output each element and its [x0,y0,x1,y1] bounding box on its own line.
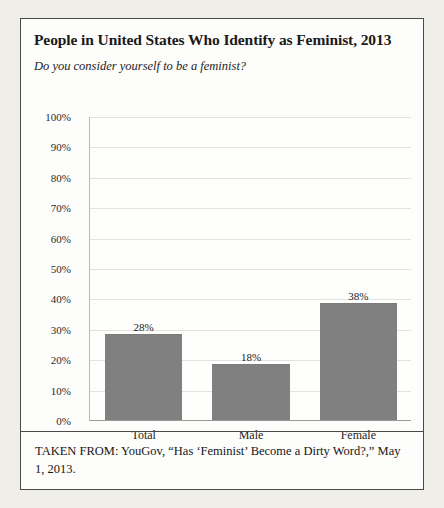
source-divider [21,431,423,432]
figure-frame: People in United States Who Identify as … [20,18,424,490]
y-axis-tick-label: 10% [11,385,71,397]
y-axis-tick-label: 90% [11,141,71,153]
plot-area: 100%90%80%70%60%50%40%30%20%10%0%28%Tota… [89,117,411,421]
gridline [90,147,411,148]
y-axis-tick-label: 20% [11,354,71,366]
bar-value-label: 38% [320,290,397,302]
gridline [90,208,411,209]
bar [212,364,289,420]
y-axis-tick-label: 0% [11,415,71,427]
gridline [90,239,411,240]
bar-value-label: 18% [212,351,289,363]
plot-wrapper: 100%90%80%70%60%50%40%30%20%10%0%28%Tota… [21,99,425,349]
chart-subtitle: Do you consider yourself to be a feminis… [34,59,411,74]
gridline [90,178,411,179]
y-axis-tick-label: 70% [11,202,71,214]
source-citation: TAKEN FROM: YouGov, “Has ‘Feminist’ Beco… [35,443,409,479]
y-axis-tick-label: 80% [11,172,71,184]
y-axis-tick-label: 100% [11,111,71,123]
bar [320,303,397,420]
chart-title: People in United States Who Identify as … [34,31,411,49]
gridline [90,269,411,270]
bar-value-label: 28% [105,321,182,333]
y-axis-tick-label: 60% [11,233,71,245]
y-axis-tick-label: 30% [11,324,71,336]
bar [105,334,182,420]
y-axis-tick-label: 50% [11,263,71,275]
y-axis-tick-label: 40% [11,293,71,305]
gridline [90,117,411,118]
